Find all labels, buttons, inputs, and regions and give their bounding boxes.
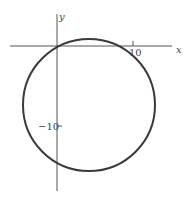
chart: y x 10 −10 bbox=[0, 0, 194, 199]
x-tick-label-10: 10 bbox=[129, 47, 142, 58]
x-axis-label: x bbox=[176, 44, 182, 55]
y-tick-label-neg10: −10 bbox=[38, 121, 59, 132]
circle-curve bbox=[23, 39, 155, 171]
y-axis-label: y bbox=[58, 11, 65, 22]
